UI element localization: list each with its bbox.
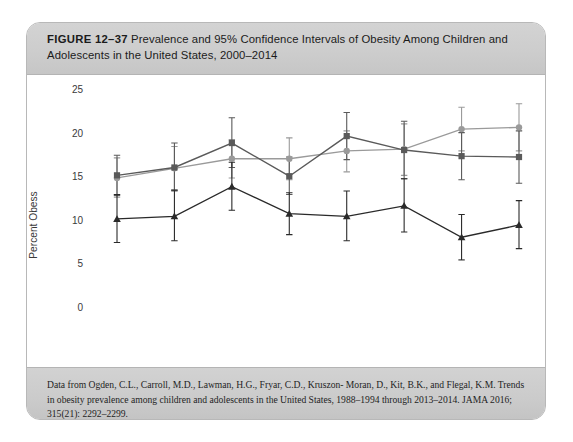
chart-svg — [27, 75, 546, 368]
y-tick-label: 5 — [77, 258, 83, 269]
y-tick-label: 20 — [72, 127, 83, 138]
chart-plot-panel: Percent Obess 20002002200420062008201020… — [27, 75, 545, 368]
y-tick-label: 10 — [72, 214, 83, 225]
figure-header-band: FIGURE 12–37 Prevalence and 95% Confiden… — [27, 23, 545, 75]
y-tick-label: 25 — [72, 84, 83, 95]
figure-number: FIGURE 12–37 — [47, 33, 128, 45]
figure-caption-band: Data from Ogden, C.L., Carroll, M.D., La… — [27, 367, 545, 419]
error-bars-circle — [114, 104, 522, 197]
series-line-triangle — [117, 187, 519, 238]
figure-card: FIGURE 12–37 Prevalence and 95% Confiden… — [26, 22, 546, 420]
figure-source-text: Data from Ogden, C.L., Carroll, M.D., La… — [47, 378, 525, 420]
y-tick-label: 0 — [77, 302, 83, 313]
error-bars-triangle — [114, 162, 522, 260]
figure-title: FIGURE 12–37 Prevalence and 95% Confiden… — [47, 32, 527, 63]
y-tick-label: 15 — [72, 171, 83, 182]
